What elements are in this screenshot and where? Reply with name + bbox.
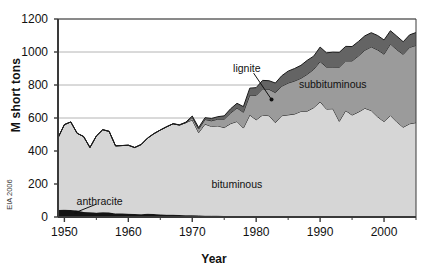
leader-dot-lignite [270, 98, 274, 102]
leader-dot-anthracite [74, 211, 77, 214]
chart-plot [0, 0, 428, 270]
chart-container: M short tons EIA 2006 Year 0200400600800… [0, 0, 428, 270]
annotation-subbituminous: subbituminous [299, 79, 367, 90]
annotation-anthracite: anthracite [77, 196, 123, 207]
annotation-lignite: lignite [233, 63, 260, 74]
annotation-bituminous: bituminous [212, 179, 263, 190]
